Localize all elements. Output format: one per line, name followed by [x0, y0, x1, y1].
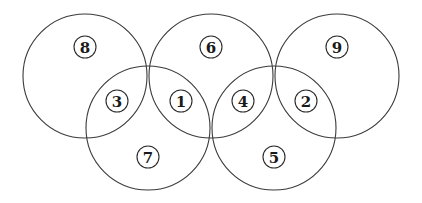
number-badge-7: 7 — [137, 146, 159, 168]
badge-number: 5 — [269, 149, 279, 167]
badge-number: 1 — [176, 93, 186, 111]
badge-number: 2 — [301, 93, 311, 111]
circle-bottom-left — [86, 66, 210, 190]
badge-number: 9 — [332, 39, 342, 57]
number-badge-9: 9 — [326, 36, 348, 58]
number-badge-4: 4 — [232, 90, 254, 112]
circle-top-right — [275, 14, 399, 138]
circle-top-middle — [149, 14, 273, 138]
number-badge-5: 5 — [263, 146, 285, 168]
circle-top-left — [23, 14, 147, 138]
labels-group: 869314275 — [74, 36, 348, 168]
number-badge-1: 1 — [170, 90, 192, 112]
number-badge-8: 8 — [74, 36, 96, 58]
number-badge-3: 3 — [106, 90, 128, 112]
number-badge-2: 2 — [295, 90, 317, 112]
circle-bottom-right — [212, 66, 336, 190]
badge-number: 4 — [238, 93, 248, 111]
badge-number: 7 — [143, 149, 153, 167]
badge-number: 8 — [80, 39, 90, 57]
number-badge-6: 6 — [200, 36, 222, 58]
olympic-rings-number-diagram: 869314275 — [0, 0, 422, 203]
badge-number: 3 — [112, 93, 122, 111]
badge-number: 6 — [206, 39, 216, 57]
